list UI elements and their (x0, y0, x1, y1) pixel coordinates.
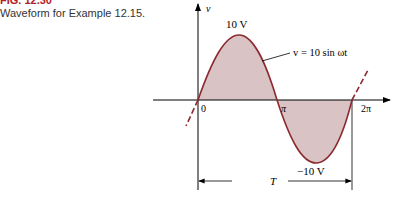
dashed-extension-left (186, 100, 198, 126)
period-label: T (270, 175, 277, 187)
peak-label: 10 V (226, 18, 248, 30)
equation-leader (262, 53, 290, 61)
dashed-extension-right (352, 70, 368, 100)
trough-label: −10 V (297, 165, 325, 177)
tick-2pi-label: 2π (361, 103, 371, 114)
waveform-chart: v 10 V v = 10 sin ωt 0 π 2π −10 V T (0, 0, 394, 197)
v-axis-label: v (206, 3, 211, 14)
equation-label: v = 10 sin ωt (293, 47, 347, 58)
tick-0-label: 0 (201, 103, 206, 114)
